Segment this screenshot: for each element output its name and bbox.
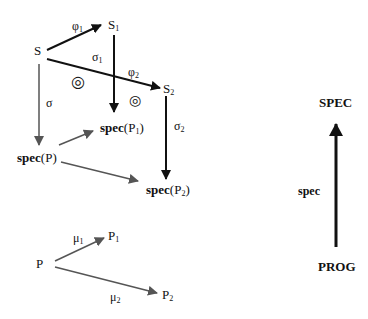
label-sigma1-sub: 1 bbox=[98, 56, 102, 65]
node-P2: P2 bbox=[162, 288, 173, 303]
label-mu1-sub: 1 bbox=[79, 237, 83, 246]
arrow-phi2 bbox=[47, 59, 160, 88]
node-specP2: spec(P2) bbox=[146, 183, 190, 198]
node-P1: P1 bbox=[108, 229, 119, 244]
node-specP1: spec(P1) bbox=[100, 121, 144, 136]
node-specP1-close: ) bbox=[139, 120, 143, 135]
label-mu2: μ2 bbox=[110, 291, 120, 305]
label-sigma: σ bbox=[46, 97, 52, 109]
node-specP: spec(P) bbox=[17, 151, 57, 164]
label-mu2-sub: 2 bbox=[116, 296, 120, 305]
label-mu1: μ1 bbox=[73, 232, 83, 246]
node-SPEC: SPEC bbox=[319, 96, 352, 109]
node-specP2-bold: spec bbox=[146, 182, 170, 197]
node-S2-sub: 2 bbox=[170, 88, 174, 97]
node-specP-bold: spec bbox=[17, 150, 41, 165]
label-phi2-base: φ bbox=[128, 65, 135, 79]
commutes-icon-right: ◎ bbox=[129, 94, 141, 108]
arrow-mu2 bbox=[55, 267, 157, 293]
arrow-specP-specP1 bbox=[59, 131, 93, 145]
label-phi2-sub: 2 bbox=[135, 71, 139, 80]
label-sigma2: σ2 bbox=[174, 120, 184, 134]
node-specP1-rest: (P bbox=[124, 120, 136, 135]
label-phi1-base: φ bbox=[72, 19, 79, 33]
label-sigma1: σ1 bbox=[92, 51, 102, 65]
label-phi2: φ2 bbox=[128, 66, 139, 80]
label-phi1: φ1 bbox=[72, 20, 83, 34]
node-S1: S1 bbox=[108, 18, 119, 33]
node-specP2-rest: (P bbox=[170, 182, 182, 197]
label-spec: spec bbox=[298, 185, 320, 197]
node-specP-rest: (P) bbox=[41, 150, 57, 165]
label-sigma2-sub: 2 bbox=[180, 125, 184, 134]
commutes-icon-left: ◎ bbox=[71, 74, 85, 90]
node-PROG: PROG bbox=[318, 260, 356, 273]
node-P: P bbox=[36, 257, 43, 270]
node-P2-sub: 2 bbox=[169, 294, 173, 303]
label-phi1-sub: 1 bbox=[79, 25, 83, 34]
node-S1-sub: 1 bbox=[115, 24, 119, 33]
node-specP2-close: ) bbox=[185, 182, 189, 197]
node-S2: S2 bbox=[163, 82, 174, 97]
node-specP1-bold: spec bbox=[100, 120, 124, 135]
node-P1-sub: 1 bbox=[115, 235, 119, 244]
node-S: S bbox=[34, 44, 41, 57]
arrow-specP-specP2 bbox=[61, 162, 138, 181]
